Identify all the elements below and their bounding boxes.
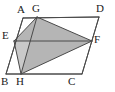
vertex-label-c: C: [68, 76, 75, 87]
vertex-label-e: E: [2, 30, 9, 41]
vertex-label-h: H: [16, 76, 24, 87]
vertex-label-a: A: [17, 4, 25, 15]
segment-DA: [23, 17, 99, 18]
segment-CD: [82, 17, 99, 74]
geometry-figure: A B C D E F G H: [0, 0, 115, 92]
vertex-label-b: B: [1, 76, 8, 87]
vertex-label-f: F: [94, 34, 100, 45]
vertex-label-d: D: [96, 3, 104, 14]
vertex-label-g: G: [32, 3, 40, 14]
